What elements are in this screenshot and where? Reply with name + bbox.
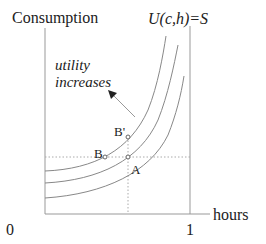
point-Bp-label: B' bbox=[114, 125, 125, 138]
point-B-marker bbox=[103, 155, 107, 159]
x-tick-one: 1 bbox=[186, 222, 194, 238]
point-Bp-marker bbox=[126, 135, 130, 139]
point-A-label: A bbox=[131, 163, 140, 176]
x-axis-label: hours bbox=[213, 207, 249, 223]
curve-label: U(c,h)=S bbox=[148, 11, 208, 27]
utility-diagram: Consumption U(c,h)=S utility increases B… bbox=[0, 0, 266, 244]
point-B-label: B bbox=[94, 147, 103, 160]
annotation-line2: increases bbox=[55, 75, 111, 90]
utility-arrow-shaft bbox=[112, 94, 135, 117]
point-A-marker bbox=[126, 155, 130, 159]
y-axis-label: Consumption bbox=[12, 10, 98, 26]
origin-label: 0 bbox=[6, 222, 14, 238]
annotation-line1: utility bbox=[55, 58, 90, 73]
